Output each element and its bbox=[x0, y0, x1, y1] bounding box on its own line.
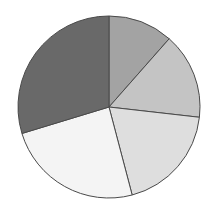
pie-slices bbox=[18, 16, 200, 198]
pie-chart bbox=[0, 0, 211, 210]
